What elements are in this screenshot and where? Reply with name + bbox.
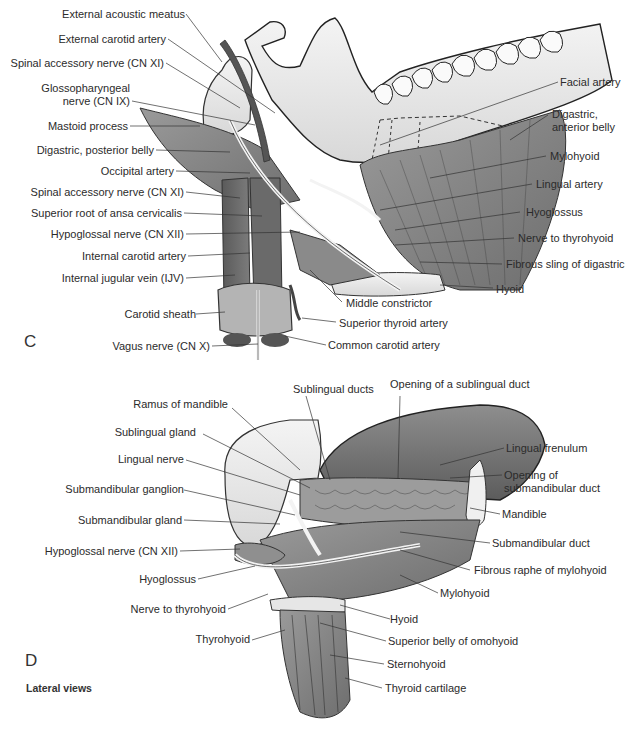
label-lingual-nerve: Lingual nerve <box>118 453 184 466</box>
label-digastric-posterior-belly: Digastric, posterior belly <box>37 144 154 157</box>
label-hypoglossal-nerve-d: Hypoglossal nerve (CN XII) <box>45 545 178 558</box>
label-submandibular-duct: Submandibular duct <box>492 537 590 550</box>
label-thyrohyoid: Thyrohyoid <box>196 633 250 646</box>
panel-letter-c: C <box>24 332 36 352</box>
label-hyoid-d: Hyoid <box>390 613 418 626</box>
label-sublingual-gland: Sublingual gland <box>115 426 196 439</box>
label-digastric-anterior-line1: Digastric, <box>552 108 598 121</box>
label-sublingual-ducts: Sublingual ducts <box>293 383 374 396</box>
label-opening-sublingual-duct: Opening of a sublingual duct <box>390 378 529 391</box>
label-digastric-anterior-line2: anterior belly <box>552 121 615 134</box>
label-superior-root-ansa-cervicalis: Superior root of ansa cervicalis <box>31 207 182 220</box>
label-nerve-to-thyrohyoid-d: Nerve to thyrohyoid <box>131 603 226 616</box>
label-opening-submandibular-line1: Opening of <box>504 469 558 482</box>
label-middle-constrictor: Middle constrictor <box>346 297 432 310</box>
label-lingual-artery: Lingual artery <box>536 178 603 191</box>
label-internal-carotid-artery: Internal carotid artery <box>82 250 186 263</box>
label-internal-jugular-vein: Internal jugular vein (IJV) <box>62 272 184 285</box>
anatomy-figure: External acoustic meatus External caroti… <box>0 0 630 730</box>
figure-caption: Lateral views <box>26 682 92 694</box>
label-external-acoustic-meatus: External acoustic meatus <box>62 8 185 21</box>
label-spinal-accessory-nerve-upper: Spinal accessory nerve (CN XI) <box>11 57 164 70</box>
label-ramus-of-mandible: Ramus of mandible <box>133 398 228 411</box>
label-facial-artery: Facial artery <box>560 76 621 89</box>
label-submandibular-gland: Submandibular gland <box>78 514 182 527</box>
label-superior-thyroid-artery: Superior thyroid artery <box>339 317 448 330</box>
label-glossopharyngeal-line2: nerve (CN IX) <box>63 95 130 108</box>
label-lingual-frenulum: Lingual frenulum <box>506 442 587 455</box>
label-submandibular-ganglion: Submandibular ganglion <box>65 483 184 496</box>
label-hypoglossal-nerve-c: Hypoglossal nerve (CN XII) <box>51 228 184 241</box>
label-common-carotid-artery: Common carotid artery <box>328 339 440 352</box>
label-spinal-accessory-nerve-lower: Spinal accessory nerve (CN XI) <box>31 186 184 199</box>
label-fibrous-raphe-mylohyoid: Fibrous raphe of mylohyoid <box>474 564 607 577</box>
label-external-carotid-artery: External carotid artery <box>58 33 166 46</box>
panel-d-drawing <box>225 405 545 718</box>
label-mylohyoid-d: Mylohyoid <box>440 587 490 600</box>
label-superior-belly-omohyoid: Superior belly of omohyoid <box>388 635 518 648</box>
label-hyoglossus-d: Hyoglossus <box>139 573 196 586</box>
label-sternohyoid: Sternohyoid <box>387 658 446 671</box>
label-mylohyoid-c: Mylohyoid <box>550 150 600 163</box>
label-fibrous-sling-digastric: Fibrous sling of digastric <box>506 258 625 271</box>
label-opening-submandibular-line2: submandibular duct <box>504 482 600 495</box>
label-glossopharyngeal-line1: Glossopharyngeal <box>41 82 130 95</box>
label-occipital-artery: Occipital artery <box>101 165 174 178</box>
label-nerve-to-thyrohyoid-c: Nerve to thyrohyoid <box>518 232 613 245</box>
panel-letter-d: D <box>25 651 37 671</box>
anatomy-illustration <box>0 0 630 730</box>
label-carotid-sheath: Carotid sheath <box>124 308 196 321</box>
label-mandible-d: Mandible <box>502 508 547 521</box>
label-thyroid-cartilage: Thyroid cartilage <box>385 682 466 695</box>
label-hyoglossus-c: Hyoglossus <box>526 206 583 219</box>
label-mastoid-process: Mastoid process <box>48 120 128 133</box>
label-hyoid-c: Hyoid <box>496 283 524 296</box>
label-vagus-nerve: Vagus nerve (CN X) <box>112 340 210 353</box>
